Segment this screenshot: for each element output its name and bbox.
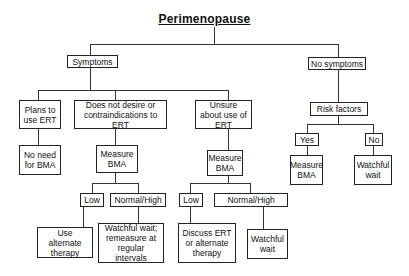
connector (263, 207, 264, 229)
connector (138, 206, 139, 223)
connector (190, 183, 250, 184)
connector (90, 67, 91, 90)
node-low-1: Low (80, 193, 104, 207)
connector (90, 44, 91, 55)
connector (250, 183, 251, 193)
node-discuss-ert: Discuss ERT or alternate therapy (178, 223, 236, 263)
connector (190, 207, 191, 223)
connector (214, 27, 215, 45)
connector (338, 69, 339, 102)
connector (307, 124, 308, 133)
node-unsure-ert: Unsure about use of ERT (195, 100, 252, 129)
connector (373, 124, 374, 133)
node-watchful-wait-2: Watchful wait (247, 229, 288, 259)
node-normal-high-1: Normal/High (110, 193, 166, 207)
node-watchful-remeasure: Watchful wait; remeasure at regular inte… (98, 223, 164, 263)
node-low-2: Low (179, 193, 203, 207)
connector (38, 90, 228, 91)
connector (307, 145, 308, 155)
node-risk-factors: Risk factors (310, 102, 368, 116)
connector (338, 115, 339, 124)
node-yes: Yes (295, 133, 319, 146)
node-symptoms: Symptoms (67, 55, 118, 68)
connector (307, 124, 373, 125)
node-use-alternate: Use alternate therapy (37, 227, 93, 258)
connector (373, 145, 374, 155)
connector (38, 128, 39, 145)
node-measure-bma-3: Measure BMA (290, 155, 323, 185)
connector (228, 175, 229, 183)
node-no: No (365, 133, 383, 146)
connector (190, 183, 191, 193)
diagram-title: Perimenopause (0, 12, 409, 26)
connector (115, 90, 116, 100)
connector (115, 128, 116, 145)
node-no-desire-ert: Does not desire or contraindications to … (74, 100, 167, 129)
node-no-need-bma: No need for BMA (19, 145, 61, 175)
connector (338, 44, 339, 57)
node-plans-ert: Plans to use ERT (19, 100, 61, 129)
node-watchful-wait-1: Watchful wait (354, 155, 392, 185)
node-normal-high-2: Normal/High (214, 193, 288, 207)
connector (38, 90, 39, 100)
connector (92, 183, 138, 184)
connector (228, 128, 229, 150)
connector (228, 90, 229, 100)
node-measure-bma-2: Measure BMA (207, 150, 243, 176)
node-no-symptoms: No symptoms (308, 57, 366, 70)
connector (115, 172, 116, 183)
connector (90, 44, 338, 45)
node-measure-bma-1: Measure BMA (96, 145, 138, 173)
connector (138, 183, 139, 193)
connector (92, 183, 93, 193)
connector (83, 206, 84, 227)
